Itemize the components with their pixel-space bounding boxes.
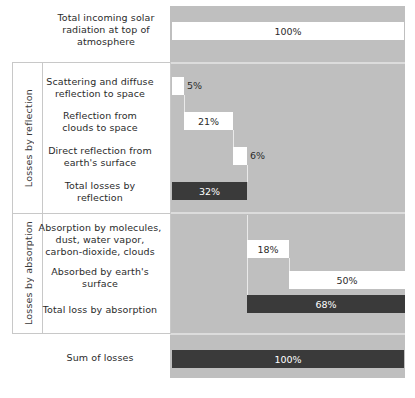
row-label-line: reflection to space xyxy=(32,88,168,100)
row-label-direct-reflection: Direct reflection from earth's surface xyxy=(32,145,168,169)
connector-5 xyxy=(289,258,290,271)
section-divider xyxy=(43,213,171,214)
bar-scattering xyxy=(172,77,184,95)
row-label-line: radiation at top of xyxy=(44,24,168,36)
bar-direct-reflection xyxy=(233,147,247,165)
panel-separator-bottom xyxy=(170,333,405,335)
bar-value-label-scattering: 5% xyxy=(187,77,202,95)
group-label-reflection: Losses by reflection xyxy=(23,89,34,187)
connector-3 xyxy=(247,165,248,182)
bar-total-incoming: 100% xyxy=(172,22,404,40)
bar-value-label: 18% xyxy=(257,244,278,255)
bar-value-label: 100% xyxy=(274,26,301,37)
bar-total-reflection: 32% xyxy=(172,182,247,200)
row-label-line: dust, water vapor, xyxy=(32,234,168,246)
row-label-line: Total losses by xyxy=(32,180,168,192)
row-label-line: Direct reflection from xyxy=(32,145,168,157)
row-label-line: Total incoming solar xyxy=(44,12,168,24)
row-label-line: Sum of losses xyxy=(32,352,168,364)
row-label-sum-of-losses: Sum of losses xyxy=(32,352,168,364)
panel-separator-top xyxy=(170,62,405,64)
bar-value-label: 32% xyxy=(199,186,220,197)
row-label-line: atmosphere xyxy=(44,36,168,48)
bar-value-label-direct-reflection: 6% xyxy=(250,147,265,165)
bar-total-absorption: 68% xyxy=(247,295,405,313)
row-label-absorption-molecules: Absorption by molecules, dust, water vap… xyxy=(32,222,168,258)
row-label-line: Total loss by absorption xyxy=(32,304,168,316)
row-label-line: reflection xyxy=(32,192,168,204)
row-label-line: surface xyxy=(32,278,168,290)
bar-absorbed-surface: 50% xyxy=(289,271,405,289)
bar-value-label: 100% xyxy=(274,354,301,365)
row-label-line: Reflection from xyxy=(32,110,168,122)
bar-clouds: 21% xyxy=(184,112,233,130)
bar-absorption-molecules: 18% xyxy=(247,240,289,258)
bar-value-label: 21% xyxy=(198,116,219,127)
row-label-scattering: Scattering and diffuse reflection to spa… xyxy=(32,76,168,100)
row-label-line: clouds to space xyxy=(32,122,168,134)
row-label-total-absorption: Total loss by absorption xyxy=(32,304,168,316)
row-label-line: earth's surface xyxy=(32,157,168,169)
bar-value-label: 68% xyxy=(315,299,336,310)
row-label-line: Absorption by molecules, xyxy=(32,222,168,234)
row-label-clouds: Reflection from clouds to space xyxy=(32,110,168,134)
row-label-absorbed-surface: Absorbed by earth's surface xyxy=(32,266,168,290)
panel-separator-middle xyxy=(170,212,405,214)
waterfall-chart: Losses by reflection Losses by absorptio… xyxy=(0,0,415,398)
row-label-total-incoming: Total incoming solar radiation at top of… xyxy=(44,12,168,48)
connector-2 xyxy=(233,130,234,147)
bar-value-label: 50% xyxy=(336,275,357,286)
bar-sum-of-losses: 100% xyxy=(172,350,404,368)
row-label-total-reflection: Total losses by reflection xyxy=(32,180,168,204)
row-label-line: carbon-dioxide, clouds xyxy=(32,246,168,258)
connector-4 xyxy=(247,215,248,240)
row-label-line: Absorbed by earth's xyxy=(32,266,168,278)
row-label-line: Scattering and diffuse xyxy=(32,76,168,88)
connector-1 xyxy=(184,95,185,112)
